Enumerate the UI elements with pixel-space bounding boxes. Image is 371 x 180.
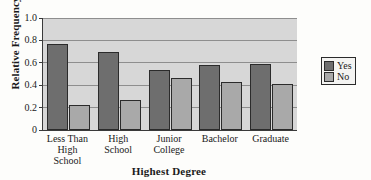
bar-no	[120, 100, 141, 130]
legend-item-yes: Yes	[324, 60, 352, 71]
y-tick-mark	[39, 130, 43, 131]
bar-no	[171, 78, 192, 130]
y-axis-title: Relative Frequency	[9, 0, 23, 93]
bar-group	[250, 18, 293, 130]
chart-title	[0, 0, 371, 3]
bar-group	[149, 18, 192, 130]
bar-yes	[199, 65, 220, 130]
y-tick-mark	[39, 40, 43, 41]
legend-item-no: No	[324, 71, 352, 82]
bar-group	[47, 18, 90, 130]
plot-area: 00.20.40.60.81.0	[42, 18, 297, 131]
bar-yes	[149, 70, 170, 130]
y-tick-mark	[39, 85, 43, 86]
bar-yes	[250, 64, 271, 130]
bar-group	[98, 18, 141, 130]
y-tick-label: 0.4	[25, 80, 38, 90]
bar-no	[69, 105, 90, 130]
y-tick-label: 1.0	[25, 13, 38, 23]
bar-yes	[98, 52, 119, 130]
bar-group	[199, 18, 242, 130]
bar-no	[221, 82, 242, 130]
legend-label-no: No	[337, 72, 349, 82]
y-tick-mark	[39, 18, 43, 19]
legend-swatch-yes	[324, 61, 334, 71]
y-tick-label: 0.8	[25, 35, 38, 45]
bar-yes	[47, 44, 68, 130]
chart-legend: Yes No	[321, 57, 356, 85]
y-tick-label: 0.6	[25, 58, 38, 68]
y-tick-mark	[39, 107, 43, 108]
bar-no	[272, 84, 293, 130]
x-axis-title: Highest Degree	[42, 165, 296, 177]
legend-label-yes: Yes	[337, 61, 352, 71]
y-tick-label: 0.2	[25, 103, 38, 113]
legend-swatch-no	[324, 72, 334, 82]
y-tick-mark	[39, 62, 43, 63]
relative-frequency-bar-chart: Relative Frequency 00.20.40.60.81.0 High…	[0, 0, 371, 180]
x-category-label: Graduate	[234, 133, 308, 144]
